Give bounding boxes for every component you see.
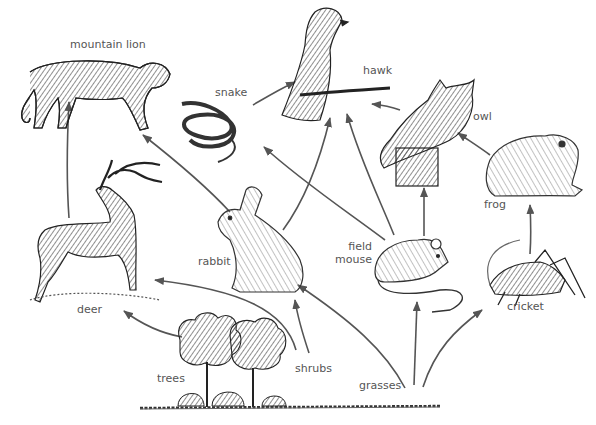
label-hawk: hawk bbox=[363, 64, 392, 77]
arrow-mouse-to-snake bbox=[264, 147, 385, 240]
owl-icon bbox=[381, 80, 474, 186]
label-snake: snake bbox=[215, 86, 247, 99]
mountain-lion-icon bbox=[22, 61, 170, 130]
arrow-owl-to-hawk bbox=[372, 104, 400, 110]
label-rabbit: rabbit bbox=[198, 255, 231, 268]
label-frog: frog bbox=[484, 198, 506, 211]
arrow-rabbit-to-hawk bbox=[283, 118, 330, 230]
arrow-grasses-to-mouse bbox=[414, 302, 417, 385]
label-field-mouse-line2: mouse bbox=[334, 253, 372, 266]
label-owl: owl bbox=[473, 110, 492, 123]
shrubs-icon bbox=[178, 392, 286, 406]
label-trees: trees bbox=[157, 372, 185, 385]
deer-icon bbox=[30, 160, 162, 302]
food-web-diagram: mountain lion hawk snake owl frog deer r… bbox=[0, 0, 596, 425]
cricket-icon bbox=[488, 240, 585, 306]
snake-icon bbox=[182, 103, 235, 162]
frog-icon bbox=[486, 135, 582, 196]
arrow-shrubs-to-rabbit bbox=[295, 300, 309, 353]
arrow-cricket-to-frog bbox=[530, 205, 531, 254]
arrow-frog-to-owl bbox=[458, 133, 490, 155]
label-field-mouse-line1: field bbox=[334, 240, 372, 253]
arrow-grasses-to-cricket bbox=[423, 310, 482, 387]
label-deer: deer bbox=[77, 303, 102, 316]
label-field-mouse: field mouse bbox=[334, 240, 372, 266]
label-shrubs: shrubs bbox=[295, 362, 332, 375]
label-cricket: cricket bbox=[507, 300, 544, 313]
mouse-icon bbox=[375, 239, 462, 312]
arrow-trees-to-deer bbox=[124, 311, 182, 337]
label-mountain-lion: mountain lion bbox=[70, 38, 146, 51]
rabbit-icon bbox=[218, 187, 303, 292]
label-grasses: grasses bbox=[359, 379, 401, 392]
